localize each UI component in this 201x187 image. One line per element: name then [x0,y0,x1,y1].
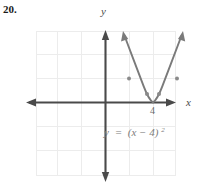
svg-text:y = (x − 4): y = (x − 4) 2 [103,126,165,139]
x-axis-label: x [185,96,191,108]
curve-point-marker [145,92,149,96]
equation-equals: = [115,126,122,138]
y-axis-label: y [100,5,106,17]
x-axis-left-arrowhead [26,99,36,107]
equation-rhs-exponent: 2 [161,126,165,134]
x-axis-right-arrowhead [166,99,176,107]
x-tick-label-4: 4 [150,105,155,116]
equation-lhs: y [103,126,109,138]
equation-rhs-base: (x − 4) [128,126,159,139]
curve-point-marker [127,77,131,81]
curve-point-marker [157,92,161,96]
y-axis-bottom-arrowhead [102,172,109,182]
parabola-graph: y x 4 y = (x − 4) 2 [0,0,201,187]
y-axis [102,30,109,182]
equation-label: y = (x − 4) 2 [103,126,165,139]
curve-point-marker [175,77,179,81]
